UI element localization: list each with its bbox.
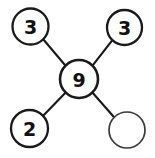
node-bottom-right-blank[interactable] [109, 112, 145, 148]
edge-center-top-right [92, 40, 112, 66]
diagram-canvas: 3 3 2 9 [0, 0, 155, 158]
node-center[interactable]: 9 [60, 60, 98, 98]
node-group: 3 3 2 9 [11, 9, 145, 149]
node-top-right-label: 3 [118, 17, 131, 39]
edge-center-bottom-left [43, 92, 66, 116]
node-bottom-left-label: 2 [23, 118, 36, 140]
node-bottom-left[interactable]: 2 [11, 110, 48, 147]
node-top-left[interactable]: 3 [13, 9, 49, 45]
node-top-left-label: 3 [24, 16, 37, 38]
edge-center-top-left [43, 39, 65, 65]
edge-center-bottom-right [92, 93, 114, 118]
node-bottom-right-circle[interactable] [109, 112, 145, 148]
node-link-diagram: 3 3 2 9 [0, 0, 155, 158]
node-center-label: 9 [72, 69, 85, 91]
node-top-right[interactable]: 3 [107, 10, 142, 45]
